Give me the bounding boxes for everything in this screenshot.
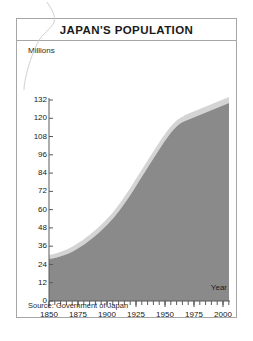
source-note: Source: Government of Japan xyxy=(28,301,128,310)
x-tick-label: 1875 xyxy=(69,311,87,319)
x-tick-label: 1950 xyxy=(156,311,174,319)
plot-area: 132 120 108 96 84 72 60 48 36 24 12 0 18… xyxy=(17,41,236,318)
x-tick-label: 1850 xyxy=(40,311,58,319)
chart-figure: JAPAN'S POPULATION Millions xyxy=(16,18,237,318)
x-axis-labels: 1850 1875 1900 1925 1950 1975 2000 xyxy=(17,41,236,318)
x-tick-label: 1925 xyxy=(127,311,145,319)
x-tick-label: 2000 xyxy=(214,311,232,319)
x-axis-title: Year xyxy=(211,283,227,292)
chart-title-bar: JAPAN'S POPULATION xyxy=(17,19,236,41)
x-tick-label: 1900 xyxy=(98,311,116,319)
x-tick-label: 1975 xyxy=(185,311,203,319)
chart-body: Millions xyxy=(17,41,236,318)
page-title: JAPAN'S POPULATION xyxy=(60,24,193,36)
